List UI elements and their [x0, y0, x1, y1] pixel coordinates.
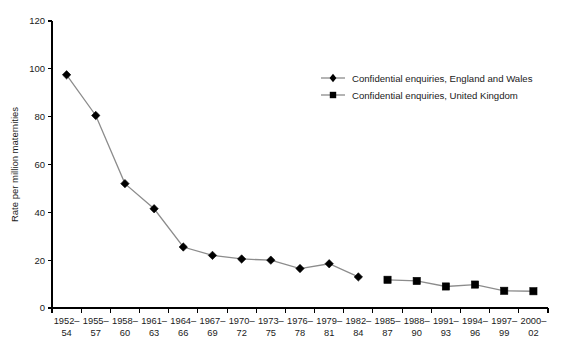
y-tick-label: 120	[29, 15, 45, 26]
series-line-0	[67, 75, 359, 277]
line-chart-plot: 020406080100120 Rate per million materni…	[0, 0, 565, 348]
chart-legend: Confidential enquiries, England and Wale…	[320, 72, 532, 101]
data-point-diamond	[237, 255, 245, 263]
x-tick-label-line2: 02	[513, 328, 553, 340]
data-point-diamond	[92, 111, 100, 119]
y-tick-label: 100	[29, 63, 45, 74]
y-axis-title-text: Rate per million maternities	[9, 107, 20, 222]
data-point-square	[471, 281, 478, 288]
series-line-1	[388, 280, 534, 291]
y-tick-label: 40	[34, 207, 45, 218]
data-point-diamond	[296, 264, 304, 272]
y-tick-label: 60	[34, 159, 45, 170]
square-marker-icon	[320, 89, 346, 101]
chart-container: 020406080100120 Rate per million materni…	[0, 0, 565, 348]
data-point-diamond	[267, 256, 275, 264]
x-axis	[52, 308, 548, 313]
data-series-group	[62, 71, 537, 295]
data-point-square	[530, 288, 537, 295]
x-tick-label: 2000–02	[513, 316, 553, 339]
data-point-diamond	[62, 71, 70, 79]
x-tick-label-line1: 2000–	[513, 316, 553, 328]
data-point-diamond	[208, 251, 216, 259]
data-point-square	[501, 287, 508, 294]
data-point-square	[442, 283, 449, 290]
y-tick-label: 20	[34, 255, 45, 266]
y-tick-label: 80	[34, 111, 45, 122]
legend-item-united-kingdom: Confidential enquiries, United Kingdom	[320, 89, 532, 101]
y-tick-label: 0	[40, 302, 45, 313]
data-point-diamond	[325, 260, 333, 268]
diamond-marker-icon	[320, 72, 346, 84]
data-point-square	[413, 277, 420, 284]
y-axis-title: Rate per million maternities	[9, 107, 20, 222]
data-point-diamond	[354, 273, 362, 281]
data-point-square	[384, 276, 391, 283]
y-axis: 020406080100120	[29, 15, 52, 313]
legend-item-england-wales: Confidential enquiries, England and Wale…	[320, 72, 532, 84]
legend-label-united-kingdom: Confidential enquiries, United Kingdom	[352, 90, 518, 101]
legend-label-england-wales: Confidential enquiries, England and Wale…	[352, 73, 532, 84]
